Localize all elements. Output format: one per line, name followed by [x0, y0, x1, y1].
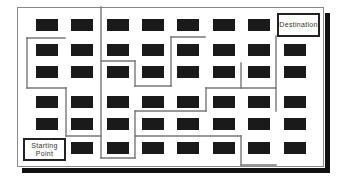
starting-point-text-line2: Point — [36, 150, 53, 158]
starting-point-text-line1: Starting — [31, 142, 58, 150]
starting-point-label: Starting Point — [23, 138, 66, 161]
destination-label: Destination — [277, 13, 320, 37]
destination-text: Destination — [279, 21, 317, 29]
route-diagram: Destination Starting Point — [0, 0, 349, 183]
